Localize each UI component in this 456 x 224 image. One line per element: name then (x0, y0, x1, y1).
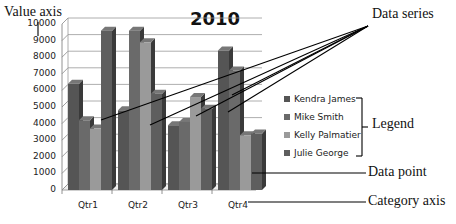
bar (90, 129, 101, 190)
plot-area (0, 0, 456, 224)
legend-label: Mike Smith (294, 112, 344, 122)
bar (251, 134, 262, 190)
bar (118, 110, 129, 190)
legend-item: Kendra James (284, 92, 361, 106)
legend-swatch-icon (284, 132, 290, 138)
bar (240, 135, 251, 190)
bar (190, 97, 201, 190)
bar (151, 94, 162, 190)
legend-label: Kelly Palmatier (294, 130, 361, 140)
bar (68, 84, 79, 190)
bar (218, 51, 229, 190)
bar (79, 120, 90, 190)
bar (101, 31, 112, 190)
legend-swatch-icon (284, 114, 290, 120)
bar (201, 109, 212, 190)
legend-label: Kendra James (294, 94, 356, 104)
legend: Kendra JamesMike SmithKelly PalmatierJul… (284, 92, 361, 164)
legend-swatch-icon (284, 150, 290, 156)
bar (179, 122, 190, 190)
legend-item: Mike Smith (284, 110, 361, 124)
legend-label: Julie George (294, 148, 349, 158)
bar (168, 125, 179, 190)
bar (129, 31, 140, 190)
legend-item: Julie George (284, 146, 361, 160)
legend-item: Kelly Palmatier (284, 128, 361, 142)
bar (140, 42, 151, 190)
legend-swatch-icon (284, 96, 290, 102)
